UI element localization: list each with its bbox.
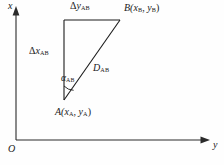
point-b-suffix: ) [156,2,159,13]
delta-y-subscript: AB [81,4,90,11]
x-axis-label: x [8,1,12,11]
delta-x-label: ΔxAB [29,46,49,57]
distance-label: DAB [93,63,109,74]
distance-hypotenuse [64,20,120,100]
diagram-canvas [0,0,224,165]
point-a-label: A(xA, yA) [55,107,91,118]
y-axis-arrowhead [201,137,211,144]
x-axis [13,6,20,140]
point-b-label: B(xB, yB) [124,3,159,14]
coordinate-diagram: x y O ΔyAB ΔxAB DAB αAB B(xB, yB) A(xA, … [0,0,224,165]
angle-label: αAB [61,74,75,84]
y-axis [16,137,210,144]
y-axis-label: y [213,140,217,150]
angle-subscript: AB [66,77,75,83]
origin-label: O [8,144,15,154]
distance-subscript: AB [100,66,109,73]
x-axis-arrowhead [13,6,20,16]
triangle-abc [64,20,120,100]
delta-y-label: ΔyAB [70,1,90,12]
point-a-suffix: ) [88,106,91,117]
delta-x-subscript: AB [40,49,49,56]
